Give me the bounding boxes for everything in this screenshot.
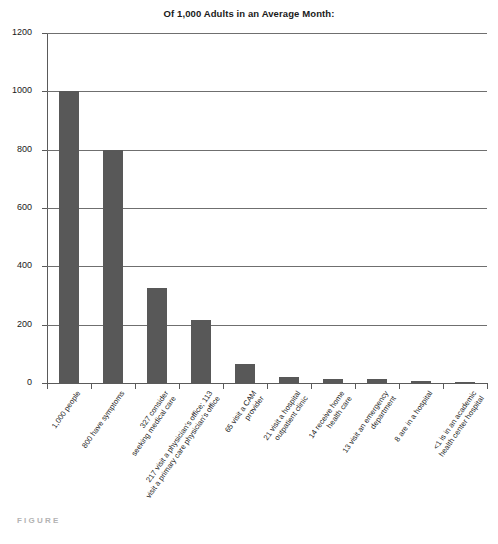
- y-tick-label: 800: [17, 144, 32, 154]
- y-tick-mark: [42, 150, 47, 151]
- bar: [59, 91, 79, 383]
- x-axis-labels: 1,000 people800 have symptoms327 conside…: [0, 389, 498, 504]
- y-tick-label: 200: [17, 319, 32, 329]
- y-tick-label: 1000: [12, 85, 32, 95]
- y-tick-mark: [42, 33, 47, 34]
- chart-title: Of 1,000 Adults in an Average Month:: [0, 8, 498, 19]
- y-tick-mark: [42, 91, 47, 92]
- figure-caption: FIGURE: [17, 516, 60, 525]
- gridline: [47, 91, 487, 92]
- bar: [191, 320, 211, 383]
- x-tick-label: 800 have symptoms: [33, 389, 127, 517]
- bar: [103, 150, 123, 383]
- y-tick-label: 1200: [12, 27, 32, 37]
- plot-area: 020040060080010001200: [47, 33, 487, 383]
- y-tick-label: 600: [17, 202, 32, 212]
- gridline: [47, 33, 487, 34]
- y-tick-mark: [42, 266, 47, 267]
- x-tick-label: <1 is in an academic health center hospi…: [385, 389, 486, 523]
- y-tick-mark: [42, 208, 47, 209]
- bar: [235, 364, 255, 383]
- y-tick-label: 400: [17, 260, 32, 270]
- y-tick-label: 0: [27, 377, 32, 387]
- y-tick-mark: [42, 325, 47, 326]
- bar: [147, 288, 167, 383]
- chart-figure: Of 1,000 Adults in an Average Month: 020…: [0, 0, 498, 544]
